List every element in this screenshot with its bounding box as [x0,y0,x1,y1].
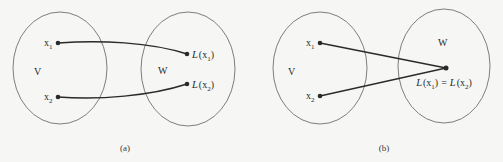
set-w-label: W [438,37,448,48]
image-l-x2-label: L(x2) [191,79,214,93]
linear-map-diagram: V W x1 x2 L(x1) L(x2) (a) V W x1 x2 [0,0,503,162]
image-point-shared [444,66,449,71]
caption-a: (a) [120,143,130,153]
set-v-ellipse [13,12,107,124]
set-w-ellipse [398,9,490,123]
set-w-ellipse [141,12,235,126]
point-x1-label: x1 [44,37,53,51]
set-v-label: V [34,66,42,77]
point-x2-label: x2 [306,90,315,104]
image-l-x1-label: L(x1) [191,49,214,63]
image-point-l-x2 [185,82,190,87]
set-v-label: V [288,66,296,77]
set-w-label: W [158,65,168,76]
point-x2 [318,94,323,99]
figure-a: V W x1 x2 L(x1) L(x2) (a) [13,12,235,153]
image-equal-label: L(x1)=L(x2) [415,77,472,91]
mapping-arrow-x1 [58,42,187,54]
point-x1 [318,41,323,46]
caption-b: (b) [379,143,390,153]
image-point-l-x1 [185,52,190,57]
figure-b: V W x1 x2 L(x1)=L(x2) (b) [273,9,490,153]
point-x1 [56,41,61,46]
point-x2-label: x2 [44,91,53,105]
mapping-line-x1 [320,43,446,68]
mapping-arrow-x2 [58,84,187,98]
point-x2 [56,95,61,100]
point-x1-label: x1 [306,37,315,51]
